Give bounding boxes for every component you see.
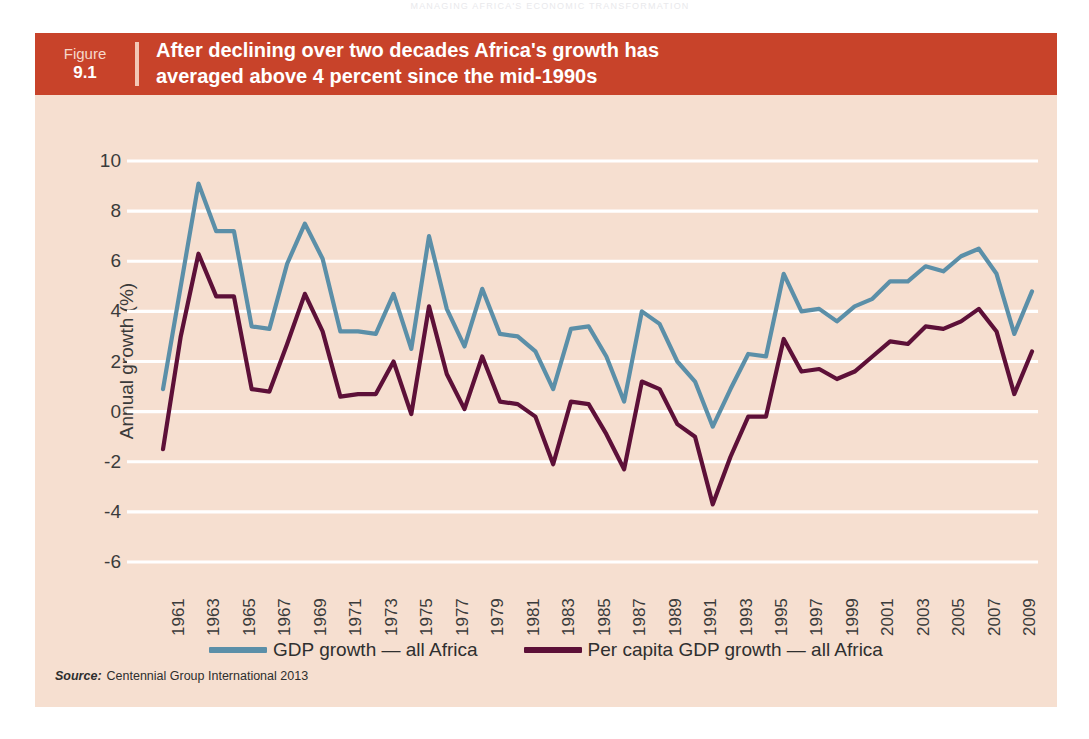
x-tick-label: 2009 [1020,598,1040,636]
x-tick-label: 1967 [275,598,295,636]
x-tick-label: 1993 [737,598,757,636]
x-tick-label: 1987 [630,598,650,636]
y-tick-label: 0 [81,401,121,423]
x-tick-label: 1985 [595,598,615,636]
y-tick-label: 2 [81,351,121,373]
source-note: Source:Centennial Group International 20… [55,669,308,683]
x-tick-label: 1961 [169,598,189,636]
x-axis-ticks: 1961196319651967196919711973197519771979… [127,95,1052,707]
x-tick-label: 1971 [346,598,366,636]
y-tick-label: 10 [81,150,121,172]
x-tick-label: 2001 [878,598,898,636]
legend-label: Per capita GDP growth — all Africa [588,639,883,661]
figure-number: 9.1 [73,64,97,82]
x-tick-label: 1981 [524,598,544,636]
legend-swatch [209,647,267,653]
x-tick-label: 2005 [949,598,969,636]
figure-title-line-1: After declining over two decades Africa'… [156,38,1057,64]
y-tick-label: 4 [81,300,121,322]
x-tick-label: 1991 [701,598,721,636]
figure-banner: Figure 9.1 After declining over two deca… [35,33,1057,95]
y-tick-label: 8 [81,200,121,222]
running-head: MANAGING AFRICA'S ECONOMIC TRANSFORMATIO… [250,1,850,13]
source-text: Centennial Group International 2013 [107,669,309,683]
y-tick-label: -4 [81,501,121,523]
x-tick-label: 1975 [417,598,437,636]
y-tick-label: 6 [81,250,121,272]
x-tick-label: 2007 [985,598,1005,636]
x-tick-label: 1969 [311,598,331,636]
figure-title-line-2: averaged above 4 percent since the mid-1… [156,64,1057,90]
x-tick-label: 2003 [914,598,934,636]
figure-panel: Figure 9.1 After declining over two deca… [35,33,1057,707]
x-tick-label: 1989 [666,598,686,636]
x-tick-label: 1997 [807,598,827,636]
x-tick-label: 1965 [240,598,260,636]
x-tick-label: 1979 [488,598,508,636]
legend-item-1: GDP growth — all Africa [209,639,478,661]
figure-title: After declining over two decades Africa'… [139,33,1057,95]
x-tick-label: 1995 [772,598,792,636]
source-label: Source: [55,669,102,683]
figure-label-word: Figure [64,46,107,62]
figure-number-block: Figure 9.1 [35,33,135,95]
x-tick-label: 1977 [453,598,473,636]
y-axis-ticks: 1086420-2-4-6 [73,95,121,707]
plot-area: Annual growth (%) 1086420-2-4-6 19611963… [35,95,1057,707]
chart-legend: GDP growth — all AfricaPer capita GDP gr… [35,633,1057,667]
x-tick-label: 1999 [843,598,863,636]
legend-item-2: Per capita GDP growth — all Africa [524,639,883,661]
legend-label: GDP growth — all Africa [273,639,478,661]
y-tick-label: -6 [81,551,121,573]
figure-page: MANAGING AFRICA'S ECONOMIC TRANSFORMATIO… [0,0,1089,739]
y-tick-label: -2 [81,451,121,473]
x-tick-label: 1973 [382,598,402,636]
x-tick-label: 1983 [559,598,579,636]
x-tick-label: 1963 [204,598,224,636]
legend-swatch [524,647,582,653]
